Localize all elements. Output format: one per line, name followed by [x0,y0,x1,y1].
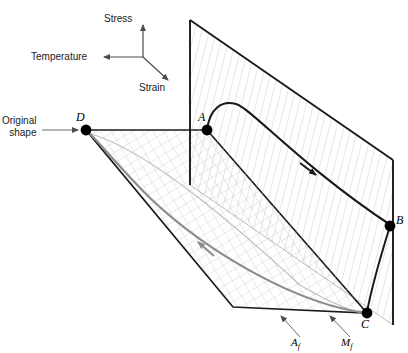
diagram-canvas: Stress Temperature Strain Original shape… [0,0,408,353]
stress-axis-label: Stress [104,13,132,25]
martensite-finish-label: Mf [341,336,352,351]
mf-sub: f [350,342,352,351]
mf-leader [330,316,350,337]
axis-triad [104,25,168,80]
point-b-dot [385,221,396,232]
austenite-finish-label: Af [291,336,300,351]
point-label-d: D [76,110,85,125]
original-shape-line2: shape [9,127,36,138]
point-d-dot [81,125,92,136]
point-a-dot [202,125,213,136]
point-label-b: B [396,213,403,228]
point-label-a: A [198,110,205,125]
original-shape-line1: Original [2,115,36,126]
af-sub: f [298,342,300,351]
strain-axis-arrow [143,57,168,80]
transition-temp-leaders [281,316,350,337]
af-base: A [291,336,298,348]
mf-base: M [341,336,350,348]
strain-axis-label: Strain [139,82,165,94]
af-leader [281,316,300,337]
point-label-c: C [361,317,369,332]
temperature-axis-label: Temperature [31,51,87,63]
original-shape-label: Original shape [2,115,36,138]
